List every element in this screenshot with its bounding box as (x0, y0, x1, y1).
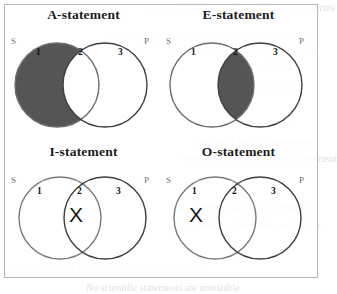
venn-diagram-figure-frame: A-statement S P 1 2 3 E-statement (4, 4, 318, 278)
panel-title-a: A-statement (5, 7, 162, 23)
set-label-p-i: P (144, 175, 149, 185)
region-label-3-e: 3 (273, 47, 278, 57)
set-label-s-o: S (166, 175, 171, 185)
panel-title-o: O-statement (160, 144, 317, 160)
panel-i-statement: I-statement S P 1 2 3 X (5, 138, 162, 275)
region-label-2-a: 2 (78, 47, 83, 57)
x-mark-region-2-i: X (69, 204, 83, 225)
region-label-1-a: 1 (36, 47, 41, 57)
venn-diagram-i (13, 166, 155, 271)
region-label-2-o: 2 (232, 186, 237, 196)
set-label-s-i: S (11, 175, 16, 185)
region-label-3-a: 3 (118, 47, 123, 57)
region-label-1-o: 1 (192, 186, 197, 196)
panel-title-i: I-statement (5, 144, 162, 160)
region-label-1-e: 1 (191, 47, 196, 57)
ghost-line: No scientific statements are untestable (86, 282, 240, 293)
region-label-2-e: 2 (233, 47, 238, 57)
circle-s-i (19, 177, 101, 259)
set-label-p-o: P (299, 175, 304, 185)
region-label-1-i: 1 (37, 186, 42, 196)
panel-a-statement: A-statement S P 1 2 3 (5, 5, 162, 142)
venn-diagram-a (13, 27, 155, 137)
set-label-p-a: P (144, 36, 149, 46)
set-label-s-e: S (166, 36, 171, 46)
panel-e-statement: E-statement S P 1 2 3 (160, 5, 317, 142)
region-label-2-i: 2 (77, 186, 82, 196)
set-label-p-e: P (299, 36, 304, 46)
panel-title-e: E-statement (160, 7, 317, 23)
x-mark-region-1-o: X (189, 204, 203, 225)
panel-o-statement: O-statement S P 1 2 3 X (160, 138, 317, 275)
set-label-s-a: S (11, 36, 16, 46)
region-label-3-o: 3 (271, 186, 276, 196)
region-label-3-i: 3 (116, 186, 121, 196)
venn-diagram-e (168, 27, 310, 137)
circle-s-o (174, 177, 256, 259)
